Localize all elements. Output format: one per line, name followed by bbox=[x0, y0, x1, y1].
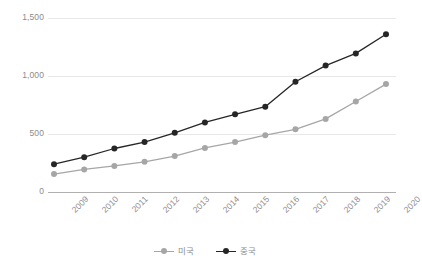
series-중국 bbox=[51, 31, 389, 167]
data-point bbox=[81, 166, 87, 172]
legend-item[interactable]: 중국 bbox=[216, 246, 256, 256]
x-tick-label: 2009 bbox=[70, 194, 91, 215]
data-point bbox=[353, 99, 359, 105]
legend-label: 중국 bbox=[240, 246, 256, 256]
data-point bbox=[111, 163, 117, 169]
x-tick-label: 2011 bbox=[130, 194, 150, 214]
data-point bbox=[202, 119, 208, 125]
x-tick-label: 2013 bbox=[190, 194, 211, 215]
data-point bbox=[232, 111, 238, 117]
data-point bbox=[51, 161, 57, 167]
data-point bbox=[323, 116, 329, 122]
x-tick-label: 2018 bbox=[341, 194, 362, 215]
y-tick-label: 1,000 bbox=[2, 71, 44, 80]
series-미국 bbox=[51, 81, 389, 177]
data-point bbox=[172, 130, 178, 136]
x-tick-label: 2019 bbox=[371, 194, 392, 215]
data-point bbox=[353, 50, 359, 56]
legend-marker-icon bbox=[216, 247, 236, 256]
data-point bbox=[202, 145, 208, 151]
x-tick-label: 2010 bbox=[100, 194, 121, 215]
x-tick-label: 2015 bbox=[251, 194, 272, 215]
legend-item[interactable]: 미국 bbox=[154, 246, 194, 256]
data-point bbox=[142, 159, 148, 165]
x-axis-labels: 2009201020112012201320142015201620172018… bbox=[48, 194, 396, 242]
data-point bbox=[262, 104, 268, 110]
x-tick-label: 2020 bbox=[402, 194, 422, 215]
data-point bbox=[292, 79, 298, 85]
y-tick-label: 1,500 bbox=[2, 13, 44, 22]
x-tick-label: 2017 bbox=[311, 194, 332, 215]
legend-marker-icon bbox=[154, 247, 174, 256]
data-point bbox=[383, 81, 389, 87]
legend-label: 미국 bbox=[178, 246, 194, 256]
data-point bbox=[81, 154, 87, 160]
data-point bbox=[383, 31, 389, 37]
x-tick-label: 2014 bbox=[221, 194, 242, 215]
data-point bbox=[111, 146, 117, 152]
series-line bbox=[54, 84, 386, 174]
series-layer bbox=[48, 18, 396, 192]
data-point bbox=[323, 63, 329, 69]
y-axis-labels: 05001,0001,500 bbox=[0, 18, 44, 192]
x-axis-baseline bbox=[48, 192, 396, 193]
y-tick-label: 500 bbox=[2, 129, 44, 138]
data-point bbox=[262, 132, 268, 138]
y-tick-label: 0 bbox=[2, 187, 44, 196]
x-tick-label: 2012 bbox=[160, 194, 181, 215]
chart-legend: 미국중국 bbox=[0, 241, 409, 261]
x-tick-label: 2016 bbox=[281, 194, 302, 215]
data-point bbox=[142, 139, 148, 145]
data-point bbox=[172, 153, 178, 159]
data-point bbox=[232, 139, 238, 145]
data-point bbox=[292, 126, 298, 132]
plot-area bbox=[48, 18, 396, 192]
data-point bbox=[51, 171, 57, 177]
